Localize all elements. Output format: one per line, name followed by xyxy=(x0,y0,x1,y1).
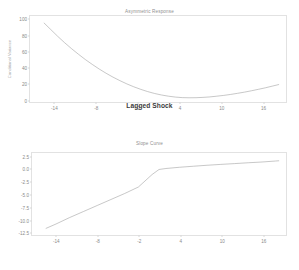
x-tick-mark xyxy=(139,235,140,237)
x-tick-mark xyxy=(180,235,181,237)
y-tick-label: -12.5 xyxy=(19,231,29,236)
y-tick-mark xyxy=(30,207,32,208)
x-tick-mark xyxy=(263,235,264,237)
y-tick-label: 100 xyxy=(19,17,27,22)
x-tick-mark xyxy=(56,235,57,237)
y-tick-label: -7.5 xyxy=(21,205,29,210)
y-tick-label: 60 xyxy=(22,49,27,54)
y-axis-title-top: Conditional Variance xyxy=(7,40,12,78)
plot-area-top: 020406080100-14-8-241016 xyxy=(29,15,287,103)
x-axis-title-top: Lagged Shock xyxy=(0,102,299,109)
y-tick-label: -5.0 xyxy=(21,193,29,198)
x-tick-label: -14 xyxy=(53,239,60,244)
panel-title-slope-curve: Slope Curve xyxy=(0,141,299,146)
x-tick-label: -8 xyxy=(96,239,100,244)
x-tick-label: 4 xyxy=(179,239,182,244)
y-tick-label: -10.0 xyxy=(19,218,29,223)
panel-asymmetric-response: Asymmetric Response Conditional Variance… xyxy=(0,0,299,135)
x-tick-label: 10 xyxy=(220,239,225,244)
panel-title-asymmetric-response: Asymmetric Response xyxy=(0,9,299,14)
y-tick-label: 20 xyxy=(22,82,27,87)
y-tick-mark xyxy=(28,19,30,20)
curve-conditional-variance xyxy=(30,16,286,102)
y-tick-mark xyxy=(28,35,30,36)
y-tick-label: 0.0 xyxy=(23,167,29,172)
x-tick-label: 16 xyxy=(261,239,266,244)
y-tick-mark xyxy=(30,195,32,196)
curve-slope xyxy=(32,153,286,235)
plot-area-bottom: 2.50.0-2.5-5.0-7.5-10.0-12.5-14-8-241016 xyxy=(31,152,287,236)
figure-canvas: Asymmetric Response Conditional Variance… xyxy=(0,0,299,270)
x-tick-mark xyxy=(97,235,98,237)
x-tick-label: -2 xyxy=(137,239,141,244)
y-tick-mark xyxy=(30,156,32,157)
y-tick-mark xyxy=(30,233,32,234)
y-tick-mark xyxy=(30,182,32,183)
y-tick-label: 40 xyxy=(22,66,27,71)
y-tick-mark xyxy=(28,84,30,85)
y-tick-mark xyxy=(30,220,32,221)
y-tick-mark xyxy=(30,169,32,170)
y-tick-mark xyxy=(28,51,30,52)
y-tick-mark xyxy=(28,68,30,69)
panel-slope-curve: Slope Curve 2.50.0-2.5-5.0-7.5-10.0-12.5… xyxy=(0,135,299,270)
y-tick-label: -2.5 xyxy=(21,180,29,185)
x-tick-mark xyxy=(222,235,223,237)
y-tick-label: 80 xyxy=(22,33,27,38)
y-tick-label: 2.5 xyxy=(23,154,29,159)
